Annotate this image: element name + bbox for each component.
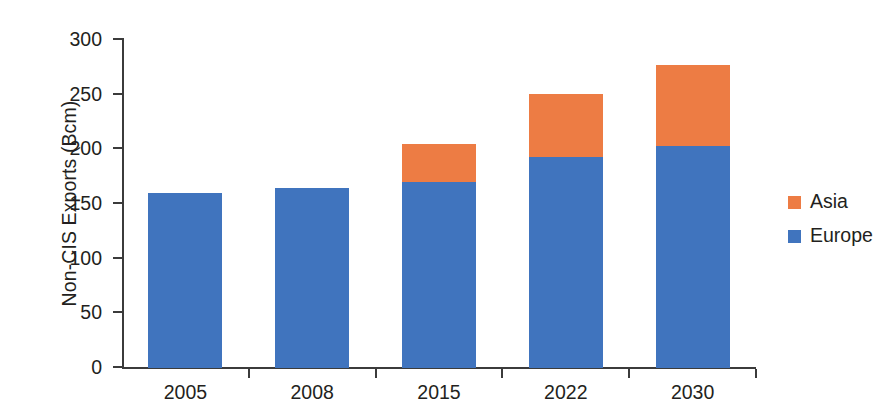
bar-group[interactable] [275, 40, 349, 368]
y-axis-tick-label: 100 [0, 246, 102, 269]
x-axis-tick [628, 369, 630, 378]
x-axis-tick [375, 369, 377, 378]
bar-segment-europe[interactable] [148, 193, 222, 368]
x-axis-tick [248, 369, 250, 378]
bar-group[interactable] [529, 40, 603, 368]
bar-group[interactable] [148, 40, 222, 368]
y-axis-tick [113, 147, 122, 149]
y-axis-tick [113, 366, 122, 368]
legend-swatch-icon [788, 230, 801, 243]
bar-segment-asia[interactable] [402, 144, 476, 182]
y-axis-tick-label: 300 [0, 28, 102, 51]
x-axis-tick-label: 2015 [417, 381, 460, 404]
chart-legend: AsiaEurope [788, 185, 873, 253]
y-axis-tick [113, 257, 122, 259]
bar-segment-asia[interactable] [529, 94, 603, 157]
bar-segment-europe[interactable] [529, 157, 603, 368]
legend-item[interactable]: Europe [788, 219, 873, 253]
legend-item[interactable]: Asia [788, 185, 873, 219]
y-axis-tick [113, 202, 122, 204]
bar-group[interactable] [656, 40, 730, 368]
y-axis-tick-label: 0 [0, 356, 102, 379]
bar-segment-asia[interactable] [656, 65, 730, 146]
y-axis-tick [113, 38, 122, 40]
bar-group[interactable] [402, 40, 476, 368]
x-axis-tick [501, 369, 503, 378]
bar-segment-europe[interactable] [656, 146, 730, 368]
bar-chart: Non-CIS Exports (Bcm) 050100150200250300… [0, 0, 893, 420]
y-axis-tick [113, 93, 122, 95]
x-axis-tick-label: 2030 [671, 381, 714, 404]
bar-segment-europe[interactable] [275, 188, 349, 368]
legend-label: Europe [810, 226, 873, 246]
y-axis-tick-label: 150 [0, 192, 102, 215]
legend-label: Asia [810, 192, 848, 212]
y-axis-tick-label: 250 [0, 82, 102, 105]
x-axis-tick-label: 2005 [164, 381, 207, 404]
legend-swatch-icon [788, 196, 801, 209]
x-axis-tick [755, 369, 757, 378]
bar-segment-europe[interactable] [402, 182, 476, 368]
plot-area [122, 39, 755, 368]
y-axis-tick [113, 311, 122, 313]
x-axis-tick-label: 2022 [544, 381, 587, 404]
y-axis-tick-label: 200 [0, 137, 102, 160]
x-axis-tick-label: 2008 [290, 381, 333, 404]
y-axis-tick-label: 50 [0, 301, 102, 324]
